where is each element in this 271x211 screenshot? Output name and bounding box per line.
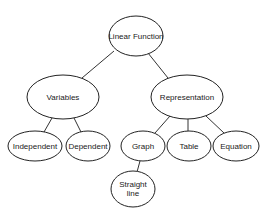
edge-linear-function-to-variables bbox=[82, 51, 114, 78]
node-label-table: Table bbox=[179, 142, 199, 151]
node-label-variables: Variables bbox=[47, 93, 80, 102]
edge-linear-function-to-representation bbox=[148, 53, 168, 78]
edge-variables-to-independent bbox=[44, 118, 52, 132]
nodes-layer: Linear FunctionVariablesRepresentationIn… bbox=[8, 16, 259, 207]
node-representation: Representation bbox=[151, 75, 223, 119]
concept-map-canvas: Linear FunctionVariablesRepresentationIn… bbox=[0, 0, 271, 211]
edge-representation-to-equation bbox=[206, 116, 224, 133]
edge-representation-to-graph bbox=[155, 116, 170, 133]
node-label-graph: Graph bbox=[132, 142, 154, 151]
node-variables: Variables bbox=[27, 75, 99, 119]
node-equation: Equation bbox=[213, 131, 259, 161]
node-label-straight-line: Straight bbox=[119, 180, 147, 189]
edge-variables-to-dependent bbox=[74, 118, 81, 132]
node-label-dependent: Dependent bbox=[68, 142, 108, 151]
node-linear-function: Linear Function bbox=[108, 16, 163, 56]
node-independent: Independent bbox=[8, 131, 62, 161]
node-table: Table bbox=[167, 131, 211, 161]
node-dependent: Dependent bbox=[66, 131, 110, 161]
node-graph: Graph bbox=[121, 131, 165, 161]
node-label-equation: Equation bbox=[220, 142, 252, 151]
node-label-linear-function: Linear Function bbox=[108, 32, 163, 41]
node-label-representation: Representation bbox=[160, 93, 214, 102]
node-label-straight-line: line bbox=[127, 189, 140, 198]
concept-map-diagram: Linear FunctionVariablesRepresentationIn… bbox=[0, 0, 271, 211]
node-label-independent: Independent bbox=[13, 142, 58, 151]
edge-graph-to-straight-line bbox=[137, 161, 140, 172]
node-straight-line: Straightline bbox=[111, 171, 155, 207]
